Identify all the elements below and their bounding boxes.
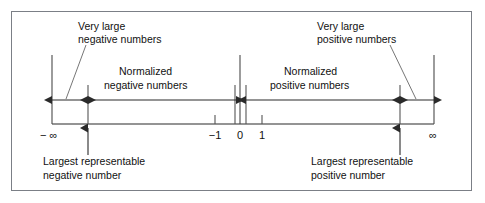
label-normalized-negative-line1: Normalized — [119, 65, 172, 77]
label-very-large-negative-line1: Very large — [78, 20, 125, 32]
axis-tick-label-minus-one: −1 — [209, 129, 222, 141]
axis-label-positive-infinity: ∞ — [429, 129, 437, 141]
caption-largest-negative-line1: Largest representable — [43, 155, 145, 167]
label-very-large-negative-line2: negative numbers — [78, 33, 161, 45]
number-line-diagram: Very large negative numbers Very large p… — [0, 0, 485, 203]
axis-tick-label-one: 1 — [259, 129, 265, 141]
leader-very-large-positive — [390, 45, 416, 99]
label-normalized-positive-line2: positive numbers — [270, 79, 349, 91]
label-normalized-negative-line2: negative numbers — [104, 79, 187, 91]
label-very-large-positive-line1: Very large — [317, 20, 364, 32]
axis-tick-label-zero: 0 — [237, 129, 243, 141]
caption-largest-positive-line1: Largest representable — [311, 155, 413, 167]
caption-largest-negative-line2: negative number — [43, 169, 122, 181]
caption-largest-positive-line2: positive number — [311, 169, 386, 181]
label-very-large-positive-line2: positive numbers — [317, 33, 396, 45]
figure-screenshot: Very large negative numbers Very large p… — [0, 0, 485, 203]
label-normalized-positive-line1: Normalized — [284, 65, 337, 77]
axis-label-negative-infinity: − ∞ — [40, 129, 57, 141]
leader-very-large-negative — [66, 45, 86, 99]
